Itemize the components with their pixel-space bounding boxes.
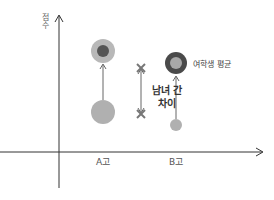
x-tick-school-b: B고 [161,155,191,168]
difference-label-line1: 남녀 간 [147,84,187,97]
school-a-female-average-inner-circle [97,45,109,57]
diagram-canvas: 점수 남녀 간 차이 여학생 평균 A고 B고 [0,0,274,200]
x-tick-school-a: A고 [88,155,118,168]
difference-markers [137,64,145,118]
y-axis-label: 점수 [40,14,50,30]
school-a-markers [91,39,115,124]
x-axis [0,148,263,156]
school-a-male-average-circle [91,100,115,124]
y-axis [55,15,63,188]
school-b-female-average-inner-circle [170,57,182,69]
difference-label: 남녀 간 차이 [147,84,187,110]
difference-label-line2: 차이 [147,97,187,110]
school-b-male-average-circle [170,119,182,131]
diagram-graphic [0,0,274,200]
legend-female-average: 여학생 평균 [193,58,231,69]
